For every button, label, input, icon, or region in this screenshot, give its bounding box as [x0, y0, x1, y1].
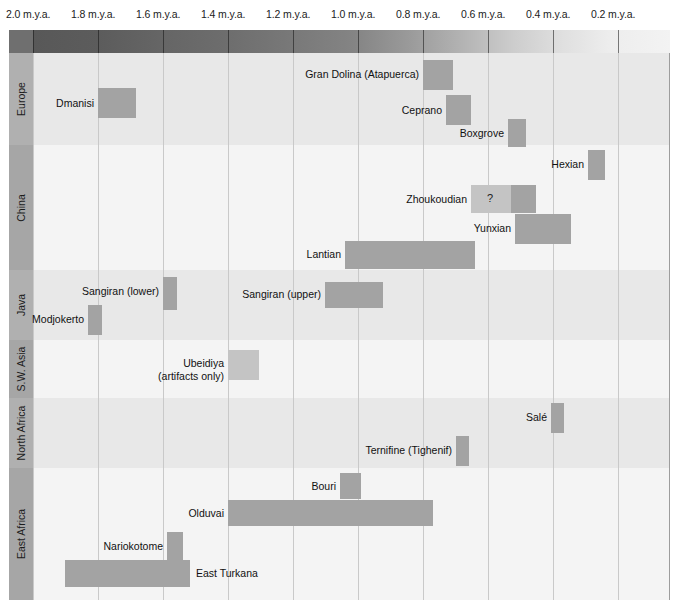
region-label-text: China — [15, 194, 27, 221]
label-dmanisi: Dmanisi — [0, 97, 94, 109]
bar-sangiran-lower[interactable] — [163, 277, 177, 310]
gradient-divider — [293, 30, 294, 53]
region-label-north-africa: North Africa — [9, 398, 33, 468]
bar-ubeidiya[interactable] — [228, 350, 259, 380]
bar-bouri[interactable] — [340, 473, 361, 499]
bar-lantian[interactable] — [345, 241, 475, 269]
gradient-divider — [98, 30, 99, 53]
region-label-text: East Africa — [15, 509, 27, 559]
region-label-text: S.W. Asia — [15, 347, 27, 392]
label-sale: Salé — [460, 411, 547, 423]
axis-tick-1-6: 1.6 m.y.a. — [136, 8, 180, 20]
label-lantian: Lantian — [250, 248, 341, 260]
region-label-china: China — [9, 145, 33, 270]
time-gradient-bar — [9, 30, 670, 53]
bar-east-turkana[interactable] — [65, 560, 190, 587]
axis-tick-0-2: 0.2 m.y.a. — [591, 8, 635, 20]
bottom-gap — [0, 600, 679, 616]
axis-tick-2-0: 2.0 m.y.a. — [6, 8, 50, 20]
gradient-divider — [423, 30, 424, 53]
gradient-divider — [228, 30, 229, 53]
bar-sale[interactable] — [551, 403, 564, 433]
label-ubeidiya: Ubeidiya (artifacts only) — [100, 357, 224, 383]
axis-tick-0-4: 0.4 m.y.a. — [526, 8, 570, 20]
label-gran-dolina: Gran Dolina (Atapuerca) — [250, 68, 419, 80]
label-boxgrove: Boxgrove — [395, 127, 504, 139]
timeline-chart-root: 2.0 m.y.a. 1.8 m.y.a. 1.6 m.y.a. 1.4 m.y… — [0, 0, 679, 616]
axis-tick-0-8: 0.8 m.y.a. — [396, 8, 440, 20]
label-hexian: Hexian — [490, 158, 584, 170]
gradient-divider — [553, 30, 554, 53]
bar-gran-dolina[interactable] — [423, 60, 453, 90]
bar-hexian[interactable] — [588, 150, 605, 180]
label-zhoukoudian: Zhoukoudian — [360, 193, 467, 205]
gridline-2-0 — [33, 53, 34, 600]
label-east-turkana: East Turkana — [196, 567, 316, 579]
bar-boxgrove[interactable] — [508, 119, 526, 147]
bar-olduvai[interactable] — [228, 500, 433, 526]
bar-yunxian[interactable] — [515, 214, 571, 244]
axis-tick-labels: 2.0 m.y.a. 1.8 m.y.a. 1.6 m.y.a. 1.4 m.y… — [0, 0, 679, 30]
label-sangiran-upper: Sangiran (upper) — [190, 288, 321, 300]
bar-sangiran-upper[interactable] — [325, 282, 383, 308]
region-label-text: North Africa — [15, 406, 27, 461]
gradient-divider — [488, 30, 489, 53]
label-ubeidiya-name: Ubeidiya — [100, 357, 224, 370]
bar-modjokerto[interactable] — [88, 305, 102, 335]
bar-zhoukoudian[interactable] — [511, 185, 536, 213]
axis-tick-0-6: 0.6 m.y.a. — [461, 8, 505, 20]
plot-right-border — [669, 53, 670, 600]
label-olduvai: Olduvai — [130, 507, 224, 519]
bar-ceprano[interactable] — [446, 95, 471, 125]
band-north-africa — [33, 398, 670, 468]
label-ceprano: Ceprano — [330, 104, 442, 116]
gradient-divider — [618, 30, 619, 53]
label-ubeidiya-sub: (artifacts only) — [100, 370, 224, 383]
gradient-divider — [33, 30, 34, 53]
label-yunxian: Yunxian — [420, 222, 511, 234]
bar-nariokotome[interactable] — [167, 532, 183, 560]
gridline-0-4 — [553, 53, 554, 600]
label-ternifine: Ternifine (Tighenif) — [320, 444, 452, 456]
axis-tick-1-8: 1.8 m.y.a. — [71, 8, 115, 20]
gradient-divider — [358, 30, 359, 53]
gradient-divider — [163, 30, 164, 53]
bar-dmanisi[interactable] — [98, 88, 136, 118]
region-label-east-africa: East Africa — [9, 468, 33, 600]
label-modjokerto: Modjokerto — [0, 313, 84, 325]
region-label-java: Java — [9, 270, 33, 340]
bar-ternifine[interactable] — [456, 436, 469, 466]
region-label-sw-asia: S.W. Asia — [9, 340, 33, 398]
label-nariokotome: Nariokotome — [55, 540, 163, 552]
zhoukoudian-question-mark: ? — [487, 192, 493, 204]
label-sangiran-lower: Sangiran (lower) — [30, 285, 159, 297]
gridline-0-2 — [618, 53, 619, 600]
label-bouri: Bouri — [255, 480, 336, 492]
axis-tick-1-0: 1.0 m.y.a. — [331, 8, 375, 20]
axis-tick-1-2: 1.2 m.y.a. — [266, 8, 310, 20]
axis-tick-1-4: 1.4 m.y.a. — [201, 8, 245, 20]
